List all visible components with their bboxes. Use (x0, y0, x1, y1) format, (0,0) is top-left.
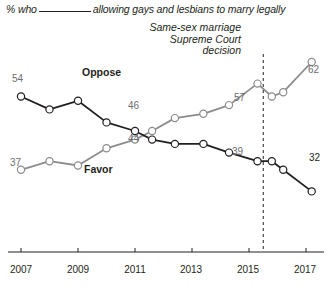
data-point-oppose (17, 93, 24, 100)
data-point-favor (149, 127, 156, 134)
data-point-oppose (74, 97, 81, 104)
data-point-favor (46, 158, 53, 165)
data-point-favor (225, 102, 232, 109)
chart-container: % whoallowing gays and lesbians to marry… (0, 0, 329, 293)
plot-area (0, 0, 329, 293)
data-point-oppose (171, 140, 178, 147)
x-tick-2017: 2017 (294, 264, 316, 275)
series-label-oppose: Oppose (82, 66, 121, 78)
value-label-favor-end: 62 (308, 64, 319, 75)
value-label-oppose-start: 54 (12, 73, 23, 84)
value-label-favor-start: 37 (10, 157, 21, 168)
data-point-favor (74, 162, 81, 169)
data-point-oppose (149, 136, 156, 143)
data-point-oppose (103, 119, 110, 126)
data-point-oppose (280, 166, 287, 173)
data-point-oppose (46, 106, 53, 113)
data-point-oppose (268, 158, 275, 165)
x-tick-2013: 2013 (180, 264, 202, 275)
data-point-favor (200, 110, 207, 117)
x-tick-2015: 2015 (237, 264, 259, 275)
series-line-favor (21, 62, 312, 170)
data-point-favor (171, 115, 178, 122)
value-label-oppose-end: 32 (309, 152, 320, 163)
value-label-favor-2015: 57 (234, 92, 245, 103)
data-point-favor (103, 145, 110, 152)
data-point-oppose (200, 140, 207, 147)
series-line-oppose (21, 97, 312, 192)
value-label-favor-mid: 44 (128, 133, 139, 144)
value-label-oppose-2015: 39 (232, 146, 243, 157)
x-tick-2011: 2011 (124, 264, 146, 275)
series-label-favor: Favor (84, 163, 113, 175)
data-point-favor (280, 89, 287, 96)
x-tick-2007: 2007 (10, 264, 32, 275)
data-point-oppose (254, 158, 261, 165)
data-point-oppose (308, 188, 315, 195)
value-label-oppose-mid: 46 (128, 100, 139, 111)
x-tick-2009: 2009 (67, 264, 89, 275)
data-point-favor (254, 80, 261, 87)
data-point-favor (268, 93, 275, 100)
